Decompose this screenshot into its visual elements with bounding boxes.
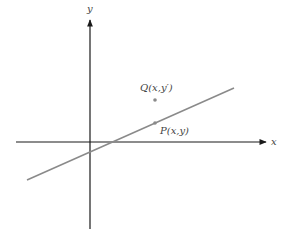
fitted-line: [27, 88, 234, 180]
point-q-label: Q(x,y′): [140, 82, 173, 93]
point-q-marker: [153, 98, 157, 102]
point-p-marker: [153, 121, 157, 125]
y-axis-label: y: [86, 3, 93, 14]
x-axis-label: x: [271, 136, 277, 147]
coordinate-diagram: x y Q(x,y′) P(x,y): [0, 0, 288, 241]
point-p-label: P(x,y): [159, 125, 189, 136]
